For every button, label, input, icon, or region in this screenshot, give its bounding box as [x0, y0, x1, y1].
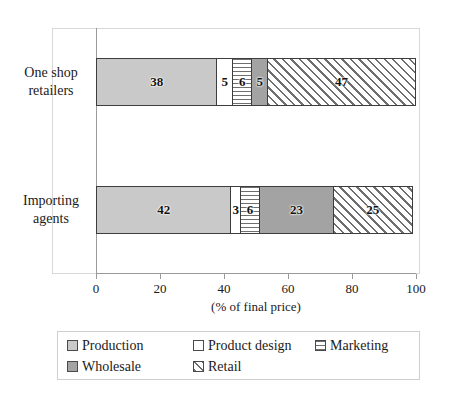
x-axis-tick-label: 100: [396, 281, 436, 297]
x-axis-title: (% of final price): [96, 299, 416, 315]
x-axis-tick-label: 20: [140, 281, 180, 297]
x-axis-tick-label: 40: [204, 281, 244, 297]
x-axis-tick: [160, 274, 161, 279]
bar-segment: 42: [96, 186, 230, 234]
bar-segment-value: 6: [247, 202, 254, 218]
bar-segment: 5: [216, 58, 232, 106]
category-label-line: retailers: [10, 82, 92, 100]
x-axis-tick: [288, 274, 289, 279]
legend-swatch-icon: [67, 340, 78, 351]
legend-swatch-icon: [315, 340, 326, 351]
legend-row: Wholesale Retail: [58, 356, 419, 377]
legend-swatch-icon: [193, 361, 204, 372]
bar-1: 3856547: [96, 58, 416, 106]
bar-segment-value: 23: [290, 202, 303, 218]
legend-item-product-design[interactable]: Product design: [193, 338, 292, 354]
x-axis-tick-label: 80: [332, 281, 372, 297]
x-axis-line: [96, 273, 416, 274]
legend-item-wholesale[interactable]: Wholesale: [67, 359, 141, 375]
bar-segment: 47: [267, 58, 416, 106]
category-label-line: One shop: [10, 64, 92, 82]
x-axis-tick: [224, 274, 225, 279]
legend-item-label: Product design: [208, 338, 292, 354]
bar-segment-value: 38: [150, 74, 163, 90]
x-axis-tick-label: 0: [76, 281, 116, 297]
stacked-bar-chart: 020406080100 (% of final price) One shop…: [0, 0, 459, 400]
x-axis-tick: [416, 274, 417, 279]
legend: Production Product design Marketing Whol…: [57, 331, 420, 380]
bar-segment-value: 25: [366, 202, 379, 218]
bar-segment-value: 5: [256, 74, 263, 90]
bar-segment-value: 47: [335, 74, 348, 90]
category-label-line: Importing: [10, 192, 92, 210]
legend-item-marketing[interactable]: Marketing: [315, 338, 388, 354]
legend-swatch-icon: [193, 340, 204, 351]
bar-segment: 5: [251, 58, 267, 106]
bar-segment-value: 5: [222, 74, 229, 90]
category-label-line: agents: [10, 210, 92, 228]
bar-segment: 23: [259, 186, 333, 234]
bar-segment-value: 3: [232, 202, 239, 218]
x-axis-tick: [96, 274, 97, 279]
legend-row: Production Product design Marketing: [58, 335, 419, 356]
legend-item-label: Retail: [208, 359, 241, 375]
legend-item-production[interactable]: Production: [67, 338, 143, 354]
bar-segment-value: 6: [239, 74, 246, 90]
legend-swatch-icon: [67, 361, 78, 372]
legend-item-retail[interactable]: Retail: [193, 359, 241, 375]
bar-segment: 3: [230, 186, 240, 234]
bar-2: 42362325: [96, 186, 416, 234]
bar-segment: 6: [240, 186, 259, 234]
bar-segment-value: 42: [157, 202, 170, 218]
bar-segment: 25: [333, 186, 413, 234]
category-label: One shopretailers: [10, 64, 92, 100]
x-axis-tick: [352, 274, 353, 279]
x-axis-tick-label: 60: [268, 281, 308, 297]
legend-item-label: Marketing: [330, 338, 388, 354]
legend-item-label: Wholesale: [82, 359, 141, 375]
bar-segment: 38: [96, 58, 216, 106]
legend-item-label: Production: [82, 338, 143, 354]
bar-segment: 6: [232, 58, 251, 106]
category-label: Importingagents: [10, 192, 92, 228]
